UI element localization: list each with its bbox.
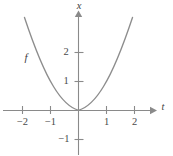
t-axis-arrow-icon bbox=[150, 107, 157, 114]
plot-canvas: x t f 2 1 −1 −2 −1 1 2 bbox=[0, 0, 173, 156]
ytick-label-2: 2 bbox=[63, 46, 68, 57]
x-axis-label: x bbox=[76, 0, 82, 11]
ytick-label-neg1: −1 bbox=[58, 133, 69, 144]
curve-label-f: f bbox=[24, 51, 29, 63]
ytick-label-1: 1 bbox=[63, 75, 68, 86]
xtick-label-neg1: −1 bbox=[45, 116, 56, 127]
xtick-label-neg2: −2 bbox=[17, 116, 28, 127]
graph-figure: x t f 2 1 −1 −2 −1 1 2 bbox=[0, 0, 173, 156]
t-axis-label: t bbox=[162, 101, 166, 112]
xtick-label-2: 2 bbox=[132, 116, 137, 127]
xtick-label-1: 1 bbox=[104, 116, 109, 127]
x-axis-arrow-icon bbox=[75, 11, 82, 18]
